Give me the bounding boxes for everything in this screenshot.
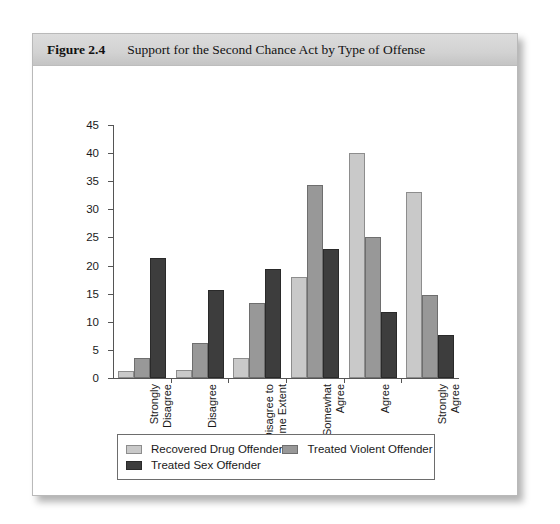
category-label-text: Somewhat Agree — [321, 384, 346, 436]
legend-entry-treated-sex-offender: Treated Sex Offender — [126, 459, 302, 471]
figure-number: Figure 2.4 — [47, 42, 105, 58]
x-axis-category-label: Agree — [379, 355, 392, 384]
plot-wrapper: 051015202530354045 Strongly DisagreeDisa… — [33, 66, 517, 495]
legend-entry-treated-violent-offender: Treated Violent Offender — [282, 443, 432, 455]
y-axis-tick: 0 — [108, 378, 113, 379]
chart-plot-area: 051015202530354045 Strongly DisagreeDisa… — [113, 125, 459, 378]
legend-swatch-icon — [126, 445, 142, 454]
bar — [118, 371, 134, 378]
y-axis-tick: 20 — [108, 266, 113, 267]
y-axis-tick: 40 — [108, 153, 113, 154]
legend-label: Treated Sex Offender — [151, 459, 261, 471]
legend-label: Recovered Drug Offender — [151, 443, 282, 455]
legend-row: Treated Sex Offender — [126, 457, 426, 473]
x-axis-category-label: Disagree — [206, 340, 219, 384]
y-axis-tick-label: 30 — [86, 203, 99, 215]
bar — [291, 277, 307, 378]
legend-row: Recovered Drug Offender Treated Violent … — [126, 441, 426, 457]
y-axis-tick-label: 15 — [86, 288, 99, 300]
legend-swatch-icon — [282, 445, 298, 454]
figure-title-band: Figure 2.4 Support for the Second Chance… — [33, 34, 517, 66]
y-axis-tick: 5 — [108, 350, 113, 351]
x-axis-tick — [401, 378, 402, 383]
category-label-text: Agree — [379, 384, 392, 413]
figure-caption: Support for the Second Chance Act by Typ… — [127, 42, 425, 58]
figure-card: Figure 2.4 Support for the Second Chance… — [32, 33, 518, 496]
legend-swatch-icon — [126, 461, 142, 470]
y-axis-tick-label: 25 — [86, 231, 99, 243]
bar — [406, 192, 422, 378]
legend-entry-recovered-drug-offender: Recovered Drug Offender — [126, 443, 282, 455]
bar — [176, 370, 192, 378]
category-label-text: Disagree — [206, 384, 219, 428]
y-axis-tick: 30 — [108, 209, 113, 210]
y-axis-tick-label: 20 — [86, 260, 99, 272]
y-axis-tick-label: 0 — [93, 372, 99, 384]
bar — [349, 153, 365, 378]
y-axis-tick: 10 — [108, 322, 113, 323]
x-axis-category-label: Somewhat Agree — [321, 332, 346, 384]
y-axis-tick: 15 — [108, 294, 113, 295]
bar — [233, 358, 249, 378]
x-axis-category-label: Strongly Agree — [436, 344, 461, 384]
x-axis-category-label: Disagree to Some Extent — [263, 321, 288, 384]
y-axis-line — [113, 125, 114, 378]
y-axis-tick: 45 — [108, 125, 113, 126]
category-label-text: Strongly Agree — [436, 384, 461, 424]
y-axis-tick: 25 — [108, 237, 113, 238]
y-axis-tick: 35 — [108, 181, 113, 182]
y-axis-tick-label: 5 — [93, 344, 99, 356]
y-axis-tick-label: 40 — [86, 147, 99, 159]
legend-label: Treated Violent Offender — [307, 443, 432, 455]
y-axis-tick-label: 35 — [86, 175, 99, 187]
chart-legend: Recovered Drug Offender Treated Violent … — [117, 434, 435, 480]
y-axis-tick-label: 10 — [86, 316, 99, 328]
y-axis-tick-label: 45 — [86, 119, 99, 131]
x-axis-tick — [228, 378, 229, 383]
category-label-text: Strongly Disagree — [148, 384, 173, 428]
x-axis-category-label: Strongly Disagree — [148, 340, 173, 384]
